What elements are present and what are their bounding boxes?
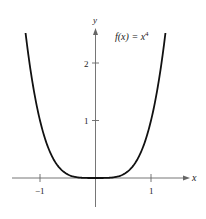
x-axis: x −1 1 [12,172,197,196]
y-tick-label-1: 1 [84,116,89,126]
function-annotation: f(x) = x4 [115,30,149,43]
y-axis-arrow-icon [93,28,98,35]
x-axis-arrow-icon [183,176,190,181]
function-plot: x −1 1 y 1 2 f(x) = x4 [0,0,206,219]
y-tick-label-2: 2 [84,59,89,69]
x-tick-label-1: 1 [149,186,154,196]
x-axis-label: x [191,172,197,183]
x-tick-label-neg1: −1 [35,186,45,196]
y-axis-label: y [92,15,97,25]
